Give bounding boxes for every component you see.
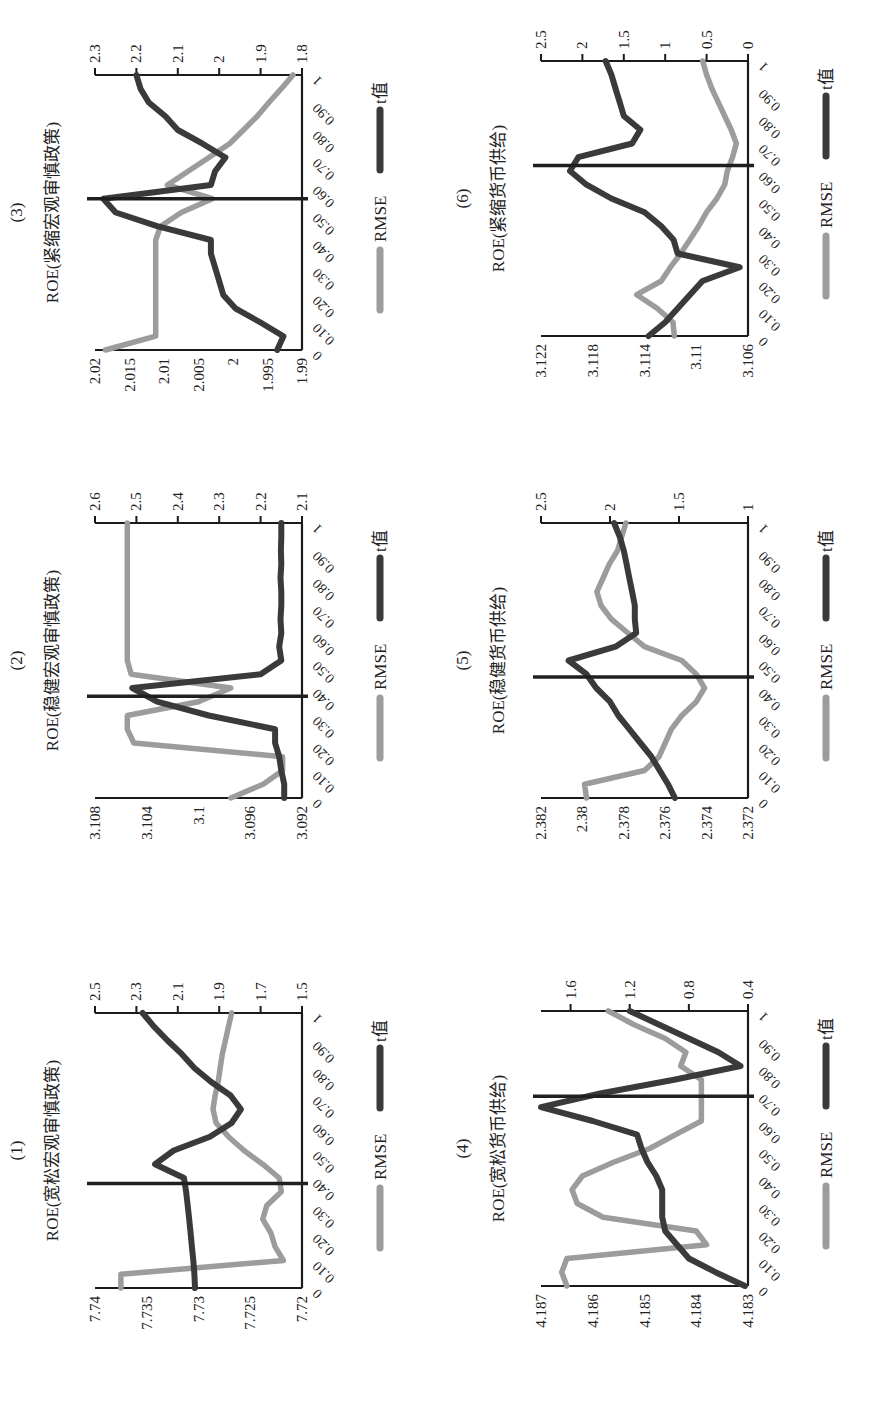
left-axis-tick-label: 3.106 xyxy=(740,344,756,378)
legend-rmse-label: RMSE xyxy=(371,196,390,242)
left-axis-tick-label: 2.01 xyxy=(156,358,172,384)
left-axis-tick-label: 3.108 xyxy=(87,806,103,840)
left-axis-tick-label: 2.015 xyxy=(122,358,138,392)
x-axis-tick-label: 0.90 xyxy=(756,548,784,576)
x-axis-tick-label: 0.60 xyxy=(756,631,784,659)
left-axis-tick-label: 3.1 xyxy=(191,806,207,825)
left-axis-tick-label: 4.183 xyxy=(740,1294,756,1328)
chart-panel-4: (4)ROE(宽松货币供给)4.1874.1864.1854.1844.1831… xyxy=(446,941,866,1361)
legend-t-label: t值 xyxy=(371,530,390,552)
x-axis-tick-label: 0.60 xyxy=(310,631,338,659)
left-axis-tick-label: 7.73 xyxy=(191,1296,207,1322)
left-axis-tick-label: 7.74 xyxy=(87,1296,103,1323)
x-axis-tick-label: 0.80 xyxy=(756,114,784,142)
chart-panel-1: (1)ROE(宽松宏观审慎政策)7.747.7357.737.7257.722.… xyxy=(0,943,420,1363)
left-axis-tick-label: 3.118 xyxy=(585,344,601,377)
x-axis-tick-label: 0.10 xyxy=(756,306,784,334)
x-axis-tick-label: 0.40 xyxy=(756,224,784,252)
rmse-line xyxy=(562,1011,707,1286)
right-axis-tick-label: 2.2 xyxy=(253,492,269,511)
x-axis-tick-label: 0.90 xyxy=(756,86,784,114)
x-axis-tick-label: 0.50 xyxy=(310,1148,338,1176)
right-axis-tick-label: 1.9 xyxy=(211,982,227,1001)
x-axis-tick-label: 0.80 xyxy=(756,1064,784,1092)
x-axis-tick-label: 1 xyxy=(310,73,326,89)
x-axis-tick-label: 0 xyxy=(756,796,772,812)
x-axis-tick-label: 0 xyxy=(756,334,772,350)
legend-t-label: t值 xyxy=(817,1018,836,1040)
right-axis-tick-label: 2 xyxy=(211,56,227,64)
right-axis-tick-label: 2.3 xyxy=(128,982,144,1001)
chart-title: ROE(稳健宏观审慎政策) xyxy=(43,570,62,751)
x-axis-tick-label: 0.30 xyxy=(756,1201,784,1229)
left-axis-tick-label: 4.184 xyxy=(688,1294,704,1328)
x-axis-tick-label: 0.90 xyxy=(310,548,338,576)
legend-t-label: t值 xyxy=(817,530,836,552)
x-axis-tick-label: 0.40 xyxy=(756,686,784,714)
x-axis-tick-label: 0.30 xyxy=(310,265,338,293)
chart-title: ROE(宽松货币供给) xyxy=(489,1075,508,1222)
right-axis-tick-label: 1 xyxy=(740,504,756,512)
x-axis-tick-label: 0.50 xyxy=(756,1146,784,1174)
left-axis-tick-label: 2.005 xyxy=(191,358,207,392)
right-axis-tick-label: 2.2 xyxy=(128,44,144,63)
left-axis-tick-label: 2.378 xyxy=(616,806,632,840)
x-axis-tick-label: 1 xyxy=(310,1011,326,1027)
x-axis-tick-label: 0.60 xyxy=(756,169,784,197)
left-axis-tick-label: 3.11 xyxy=(688,344,704,370)
right-axis-tick-label: 2 xyxy=(602,504,618,512)
chart-panel-5: (5)ROE(稳健货币供给)2.3822.382.3782.3762.3742.… xyxy=(446,453,866,873)
left-axis-tick-label: 3.104 xyxy=(139,806,155,840)
x-axis-tick-label: 0.40 xyxy=(310,686,338,714)
right-axis-tick-label: 1.9 xyxy=(253,44,269,63)
legend-t-label: t值 xyxy=(817,68,836,90)
legend-t-label: t值 xyxy=(371,82,390,104)
x-axis-tick-label: 0.60 xyxy=(310,183,338,211)
left-axis-tick-label: 1.995 xyxy=(260,358,276,392)
x-axis-tick-label: 0.60 xyxy=(756,1119,784,1147)
t-value-line xyxy=(143,1013,241,1288)
left-axis-tick-label: 3.122 xyxy=(533,344,549,378)
left-axis-tick-label: 4.187 xyxy=(533,1294,549,1328)
left-axis-tick-label: 7.735 xyxy=(139,1296,155,1330)
right-axis-tick-label: 0.8 xyxy=(681,980,697,999)
x-axis-tick-label: 0.10 xyxy=(310,768,338,796)
rmse-line xyxy=(127,523,282,798)
right-axis-tick-label: 2.5 xyxy=(87,982,103,1001)
chart-number: (2) xyxy=(7,651,26,671)
x-axis-tick-label: 0.70 xyxy=(756,141,784,169)
left-axis-tick-label: 3.096 xyxy=(242,806,258,840)
x-axis-tick-label: 0.10 xyxy=(310,1258,338,1286)
x-axis-tick-label: 0.30 xyxy=(310,713,338,741)
right-axis-tick-label: 2 xyxy=(574,42,590,50)
rmse-line xyxy=(585,523,705,798)
x-axis-tick-label: 0.90 xyxy=(310,100,338,128)
right-axis-tick-label: 1.6 xyxy=(563,980,579,999)
left-axis-tick-label: 2.02 xyxy=(87,358,103,384)
x-axis-tick-label: 0.20 xyxy=(310,293,338,321)
chart-title: ROE(紧缩宏观审慎政策) xyxy=(43,122,62,303)
right-axis-tick-label: 2.3 xyxy=(211,492,227,511)
chart-svg: (3)ROE(紧缩宏观审慎政策)2.022.0152.012.00521.995… xyxy=(0,5,420,425)
x-axis-tick-label: 0.70 xyxy=(756,603,784,631)
right-axis-tick-label: 2.5 xyxy=(533,492,549,511)
legend-t-label: t值 xyxy=(371,1020,390,1042)
x-axis-tick-label: 0.80 xyxy=(756,576,784,604)
left-axis-tick-label: 3.114 xyxy=(637,344,653,378)
x-axis-tick-label: 0.30 xyxy=(756,713,784,741)
x-axis-tick-label: 0.20 xyxy=(310,1231,338,1259)
x-axis-tick-label: 0.40 xyxy=(310,238,338,266)
right-axis-tick-label: 0 xyxy=(740,42,756,50)
x-axis-tick-label: 0.50 xyxy=(310,658,338,686)
legend-rmse-label: RMSE xyxy=(817,1132,836,1178)
left-axis-tick-label: 2.374 xyxy=(699,806,715,840)
x-axis-tick-label: 0.70 xyxy=(310,603,338,631)
right-axis-tick-label: 2.1 xyxy=(170,982,186,1001)
x-axis-tick-label: 0.40 xyxy=(310,1176,338,1204)
right-axis-tick-label: 2.5 xyxy=(128,492,144,511)
left-axis-tick-label: 4.185 xyxy=(637,1294,653,1328)
right-axis-tick-label: 2.1 xyxy=(170,44,186,63)
x-axis-tick-label: 0.80 xyxy=(310,1066,338,1094)
chart-number: (1) xyxy=(7,1141,26,1161)
chart-panel-3: (3)ROE(紧缩宏观审慎政策)2.022.0152.012.00521.995… xyxy=(0,5,420,425)
